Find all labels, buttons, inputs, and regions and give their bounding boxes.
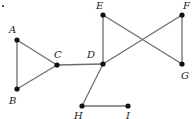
node-label-h: H [73,110,83,119]
node-label-i: I [125,110,131,119]
node-group [14,12,184,108]
node-label-f: F [182,0,191,11]
node-label-e: E [95,0,104,11]
node-d [100,61,105,66]
node-b [14,86,19,91]
graph-diagram: ABCDEFGHI [0,0,193,119]
node-label-g: G [181,70,189,81]
node-g [179,61,184,66]
node-label-c: C [54,49,62,60]
node-f [179,12,184,17]
edge-group [17,15,182,106]
node-a [14,37,19,42]
label-group: ABCDEFGHI [8,0,191,119]
stray-mark [2,5,4,7]
node-label-b: B [8,95,16,106]
edge-a-c [17,40,57,65]
edge-d-h [82,64,103,106]
node-h [79,103,84,108]
node-i [125,103,130,108]
edge-b-c [17,65,57,89]
edge-c-d [57,64,103,65]
node-label-d: D [86,49,95,60]
node-label-a: A [8,24,16,35]
node-c [54,62,59,67]
node-e [100,12,105,17]
